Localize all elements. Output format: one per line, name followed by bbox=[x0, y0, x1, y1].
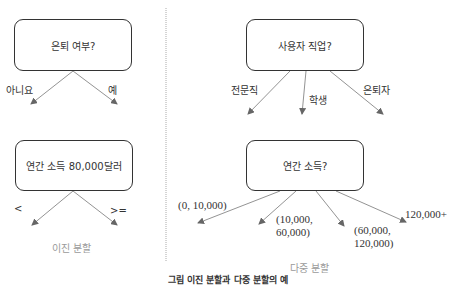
node-question: 사용자 직업? bbox=[278, 38, 332, 53]
branch-label-range-3: (60,000, 120,000) bbox=[354, 224, 393, 250]
branch-label-range-2: (10,000, 60,000) bbox=[276, 213, 313, 239]
branch-label-student: 학생 bbox=[309, 94, 327, 107]
binary-node-income: 연간 소득 80,000달러 bbox=[15, 140, 133, 191]
node-question: 은퇴 여부? bbox=[51, 38, 96, 53]
multi-node-income: 연간 소득? bbox=[246, 140, 364, 191]
branch-label-yes: 예 bbox=[108, 84, 117, 97]
multi-node-occupation: 사용자 직업? bbox=[246, 19, 364, 71]
branch-label-no: 아니요 bbox=[6, 84, 33, 97]
branch-label-retired: 은퇴자 bbox=[363, 84, 390, 97]
node-question: 연간 소득? bbox=[283, 158, 328, 173]
branch-label-range-1: (0, 10,000) bbox=[178, 199, 227, 212]
binary-node-retired: 은퇴 여부? bbox=[14, 19, 132, 71]
node-question: 연간 소득 80,000달러 bbox=[26, 158, 121, 173]
subtitle-binary: 이진 분할 bbox=[52, 240, 91, 255]
branch-label-professional: 전문직 bbox=[231, 84, 258, 97]
branch-label-less: < bbox=[14, 202, 22, 215]
figure-caption: 그림 이진 분할과 다중 분할의 예 bbox=[0, 273, 456, 286]
branch-label-range-4: 120,000+ bbox=[405, 208, 447, 221]
branch-label-greater-equal: >= bbox=[110, 204, 127, 217]
